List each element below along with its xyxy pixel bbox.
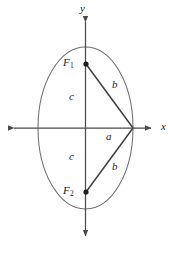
segment-label-b-lower: b	[112, 161, 118, 172]
segment-label-c-upper: c	[69, 91, 74, 102]
segment-label-a: a	[106, 131, 112, 142]
segment-label-c-lower: c	[69, 151, 74, 162]
focus-point-f1	[83, 61, 88, 66]
focus-label-f1-text: F	[63, 56, 70, 68]
x-axis-label: x	[161, 121, 166, 132]
diagram-canvas	[0, 0, 172, 253]
ellipse-diagram-figure: y x F1 F2 b b c c a	[0, 0, 172, 253]
segment-label-b-upper: b	[112, 79, 118, 90]
focus-point-f2	[83, 189, 88, 194]
y-axis-label: y	[80, 3, 85, 14]
focus-label-f2-subscript: 2	[70, 189, 74, 198]
focus-label-f2: F2	[63, 185, 74, 197]
focus-label-f1: F1	[63, 57, 74, 69]
focus-label-f2-text: F	[63, 184, 70, 196]
focus-label-f1-subscript: 1	[70, 61, 74, 70]
segment-f1-to-vertex	[86, 64, 133, 128]
